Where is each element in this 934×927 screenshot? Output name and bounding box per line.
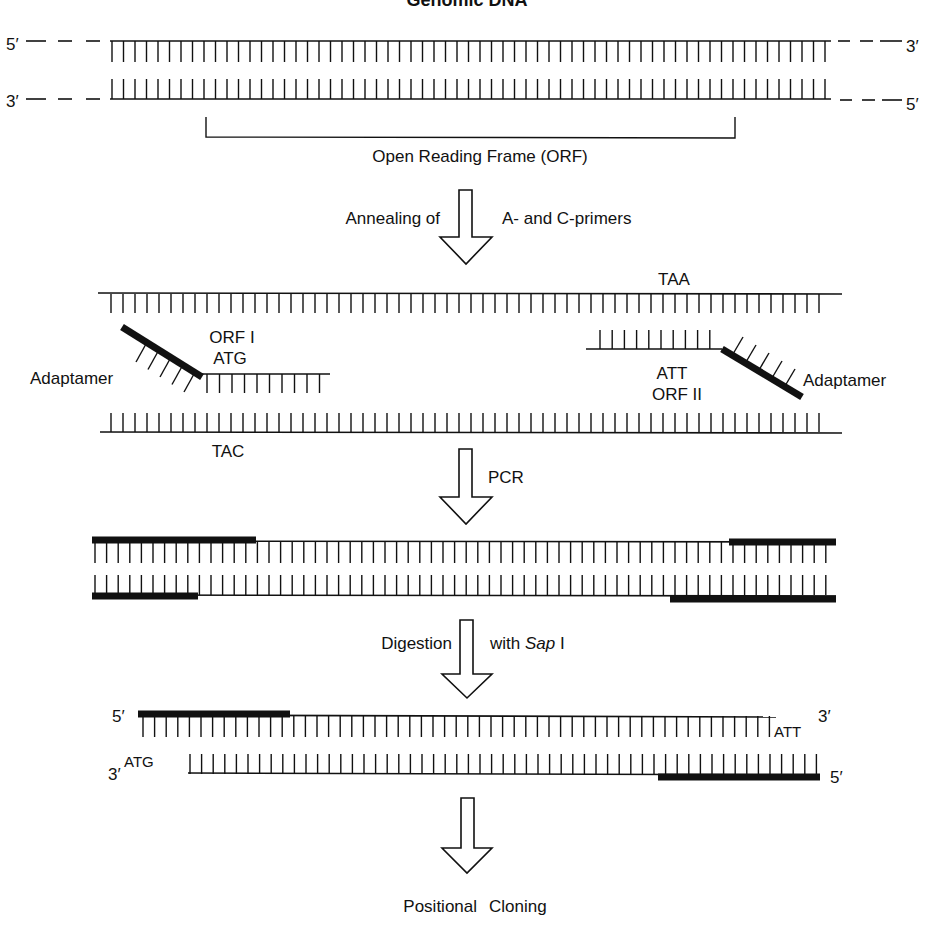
enzyme-suffix: I [555,634,564,653]
pcr-top-bases [95,542,826,563]
atg-codon-label: ATG [213,349,247,368]
right-adaptamer-bar [722,349,802,397]
tac-codon-label: TAC [212,442,245,461]
top-strand-bases [112,41,825,62]
down-arrow-icon [442,798,492,873]
annealing-label: Annealing of [345,209,440,228]
base-tick [184,374,194,392]
digest-bottom-bases [190,754,816,774]
left-adaptamer-label: Adaptamer [30,369,113,388]
pcr-product [92,540,836,599]
down-arrow-icon [440,190,492,264]
orf-label: Open Reading Frame (ORF) [372,147,587,166]
base-tick [733,337,743,354]
bottom-strand-3prime-label: 3′ [6,92,19,111]
template-top-backbone [98,293,842,294]
orf-bracket [206,117,735,138]
template-bottom-backbone [100,432,842,433]
digested-product: 5′ ATT 3′ 3′ ATG 5′ [108,707,843,787]
right-primer-bases [600,330,710,349]
base-tick [136,344,146,362]
base-tick [746,345,756,362]
digest-top-5prime-label: 5′ [112,707,125,726]
with-text: with [489,634,525,653]
orf-ii-label: ORF II [652,385,702,404]
template-top-bases [111,294,819,313]
pcr-bottom-bases [95,575,826,595]
primers-label: A- and C-primers [502,209,631,228]
base-tick [759,353,769,370]
att-codon-label: ATT [657,364,688,383]
orf-cloning-diagram: Genomic DNA 5′ 3′ 3′ 5′ Open Reading Fra… [0,0,934,927]
annealing-step: TAA ORF I ATG Adaptamer ATT ORF II Adapt… [30,270,886,461]
genomic-dna-title: Genomic DNA [406,0,527,10]
genomic-dna: 5′ 3′ 3′ 5′ Open Reading Frame (ORF) [6,35,919,166]
positional-word: Positional [403,897,477,916]
orf-i-label: ORF I [209,328,254,347]
enzyme-name: Sap [525,634,555,653]
bottom-strand-5prime-label: 5′ [906,95,919,114]
template-bottom-bases [111,413,819,432]
base-tick [148,352,158,370]
taa-codon-label: TAA [658,270,690,289]
base-tick [772,361,782,378]
base-tick [172,367,182,385]
digest-bottom-5prime-label: 5′ [830,768,843,787]
diagram-canvas: Genomic DNA 5′ 3′ 3′ 5′ Open Reading Fra… [0,0,934,927]
digest-atg-codon-label: ATG [124,753,154,770]
top-strand-5prime-label: 5′ [6,35,19,54]
left-primer-bases [207,374,320,393]
base-tick [785,369,795,386]
base-tick [160,359,170,377]
digest-att-codon-label: ATT [774,723,801,740]
down-arrow-icon [440,449,492,524]
sapi-label: with Sap I [489,634,565,653]
digest-top-bases [143,716,769,737]
top-strand-3prime-label: 3′ [906,37,919,56]
digestion-label: Digestion [381,634,452,653]
digest-top-3prime-label: 3′ [818,707,831,726]
left-adaptamer-bar [122,327,202,377]
cloning-word: Cloning [489,897,547,916]
bottom-strand-bases [112,79,825,99]
pcr-label: PCR [488,468,524,487]
right-adaptamer-label: Adaptamer [803,371,886,390]
down-arrow-icon [442,620,492,698]
digest-bottom-3prime-label: 3′ [108,765,121,784]
positional-cloning-label: PositionalCloning [403,897,546,916]
